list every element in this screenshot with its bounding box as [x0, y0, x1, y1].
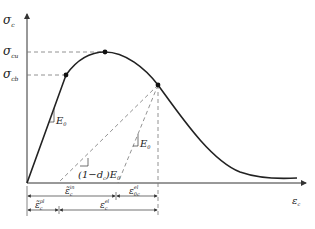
- stress-strain-diagram: σc σcu σcb εc E0 E0 (1−dc)E0 ε̃cin ε0cel…: [0, 0, 315, 229]
- damaged-modulus-label: (1−dc)E0: [78, 169, 121, 181]
- peak-stress-label: σcu: [3, 44, 19, 59]
- y-axis-label: σc: [3, 13, 15, 28]
- peak-point: [103, 50, 108, 55]
- elastic-0-strain-label: ε0cel: [129, 184, 140, 197]
- x-axis-label: εc: [292, 195, 300, 207]
- stress-strain-curve: [27, 52, 297, 183]
- cb-point: [64, 73, 69, 78]
- plastic-strain-label: ε̃cpl: [35, 198, 45, 211]
- elastic-unload-modulus-label: E0: [139, 138, 151, 150]
- elastic-strain-label: εcel: [100, 198, 110, 211]
- unload-point: [156, 83, 161, 88]
- inelastic-strain-label: ε̃cin: [65, 184, 74, 197]
- initial-modulus-label: E0: [55, 115, 67, 127]
- cb-stress-label: σcb: [3, 67, 19, 82]
- damaged-slope-triangle: [80, 158, 88, 166]
